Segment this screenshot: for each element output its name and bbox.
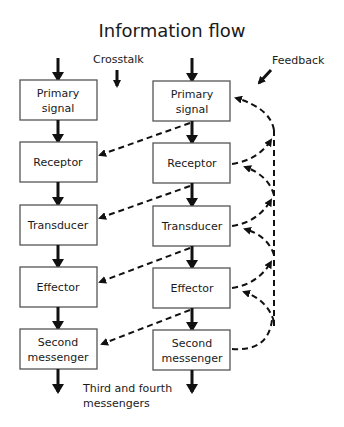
- left-box-second-messenger: Second messenger: [20, 329, 97, 369]
- right-box-transducer: Transducer: [153, 206, 230, 246]
- svg-text:Second: Second: [172, 337, 212, 350]
- svg-text:Effector: Effector: [171, 282, 214, 295]
- svg-text:Receptor: Receptor: [33, 156, 83, 169]
- feedback-arrow-icon: [232, 140, 271, 164]
- feedback-arrow-icon: [236, 98, 274, 130]
- feedback-arrow-icon: [244, 292, 274, 322]
- right-box-receptor: Receptor: [153, 143, 230, 183]
- svg-text:Receptor: Receptor: [167, 157, 217, 170]
- feedback-label: Feedback: [272, 54, 325, 67]
- left-box-receptor: Receptor: [20, 142, 97, 182]
- svg-text:Transducer: Transducer: [27, 219, 89, 232]
- right-box-primary-signal: Primary signal: [153, 81, 230, 121]
- feedback-arrow-icon: [245, 167, 274, 195]
- crosstalk-label: Crosstalk: [93, 53, 144, 66]
- output-label-line1: Third and fourth: [82, 382, 172, 395]
- svg-text:signal: signal: [176, 103, 209, 116]
- svg-text:Primary: Primary: [171, 88, 214, 101]
- left-box-transducer: Transducer: [20, 205, 97, 245]
- feedback-arrow-icon: [232, 262, 271, 288]
- left-box-primary-signal: Primary signal: [20, 80, 97, 120]
- feedback-arrow-icon: [232, 200, 271, 226]
- right-box-second-messenger: Second messenger: [153, 330, 230, 370]
- right-box-effector: Effector: [153, 268, 230, 308]
- information-flow-diagram: Information flow Crosstalk Feedback Prim…: [0, 0, 344, 427]
- svg-text:Second: Second: [38, 336, 78, 349]
- svg-text:messenger: messenger: [28, 351, 89, 364]
- diagram-title: Information flow: [99, 20, 246, 41]
- svg-text:Transducer: Transducer: [161, 220, 223, 233]
- feedback-loop: [232, 320, 272, 349]
- svg-text:Effector: Effector: [37, 281, 80, 294]
- right-column: Primary signal Receptor Transducer Effec…: [153, 58, 230, 392]
- svg-text:messenger: messenger: [162, 352, 223, 365]
- svg-text:signal: signal: [42, 102, 75, 115]
- feedback-arrow-icon: [245, 229, 274, 255]
- feedback-edges: [232, 98, 274, 349]
- output-label-line2: messengers: [83, 397, 150, 410]
- left-box-effector: Effector: [20, 267, 97, 307]
- feedback-arrow-icon: [259, 70, 271, 83]
- svg-text:Primary: Primary: [37, 87, 80, 100]
- left-column: Primary signal Receptor Transducer Effec…: [20, 58, 97, 392]
